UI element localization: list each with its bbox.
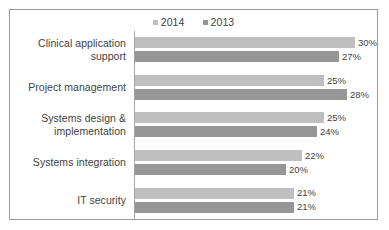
- legend-label-2013: 2013: [211, 17, 235, 28]
- category-row-systems-integration: Systems integration 22% 20%: [10, 144, 377, 182]
- bar-value-2013: 27%: [342, 52, 361, 62]
- bar-value-2014: 22%: [305, 151, 324, 161]
- bar-value-2013: 20%: [289, 165, 308, 175]
- category-rows: Clinical application support 30% 27%: [10, 31, 377, 219]
- bar-line-2013: 27%: [135, 51, 377, 62]
- category-row-project-management: Project management 25% 28%: [10, 69, 377, 107]
- bar-2013[interactable]: [135, 126, 317, 137]
- bar-value-2014: 21%: [297, 188, 316, 198]
- bar-value-2014: 25%: [327, 113, 346, 123]
- chart-frame: 2014 2013 Clinical application support 3…: [9, 9, 378, 220]
- bar-group: 25% 28%: [135, 69, 377, 107]
- bar-group: 22% 20%: [135, 144, 377, 182]
- bar-line-2014: 25%: [135, 75, 377, 86]
- bar-group: 25% 24%: [135, 106, 377, 144]
- legend-swatch-2014: [153, 20, 158, 25]
- category-row-clinical-application-support: Clinical application support 30% 27%: [10, 31, 377, 69]
- chart-legend: 2014 2013: [10, 13, 377, 31]
- bar-line-2013: 24%: [135, 126, 377, 137]
- bar-2013[interactable]: [135, 51, 339, 62]
- category-label: Systems integration: [10, 156, 130, 169]
- bar-value-2014: 25%: [327, 76, 346, 86]
- bar-value-2014: 30%: [358, 38, 377, 48]
- category-label: Systems design & implementation: [10, 112, 130, 137]
- category-row-it-security: IT security 21% 21%: [10, 181, 377, 219]
- bar-line-2013: 28%: [135, 89, 377, 100]
- bar-group: 30% 27%: [135, 31, 377, 69]
- category-row-systems-design-implementation: Systems design & implementation 25% 24%: [10, 106, 377, 144]
- bar-2013[interactable]: [135, 89, 347, 100]
- bar-line-2014: 30%: [135, 37, 377, 48]
- legend-label-2014: 2014: [161, 17, 185, 28]
- bar-line-2014: 22%: [135, 150, 377, 161]
- plot-area: Clinical application support 30% 27%: [10, 31, 377, 219]
- category-label: IT security: [10, 194, 130, 207]
- legend-entry-2013[interactable]: 2013: [203, 17, 235, 28]
- category-label: Project management: [10, 81, 130, 94]
- legend-swatch-2013: [203, 20, 208, 25]
- bar-2014[interactable]: [135, 75, 324, 86]
- bar-value-2013: 24%: [320, 127, 339, 137]
- bar-2013[interactable]: [135, 202, 294, 213]
- bar-line-2013: 21%: [135, 202, 377, 213]
- bar-line-2013: 20%: [135, 164, 377, 175]
- bar-line-2014: 25%: [135, 112, 377, 123]
- bar-chart-figure: 2014 2013 Clinical application support 3…: [0, 0, 389, 230]
- bar-2013[interactable]: [135, 164, 286, 175]
- bar-2014[interactable]: [135, 188, 294, 199]
- category-label: Clinical application support: [10, 37, 130, 62]
- bar-2014[interactable]: [135, 112, 324, 123]
- legend-entry-2014[interactable]: 2014: [153, 17, 185, 28]
- bar-2014[interactable]: [135, 150, 302, 161]
- bar-value-2013: 21%: [297, 202, 316, 212]
- bar-value-2013: 28%: [350, 90, 369, 100]
- bar-group: 21% 21%: [135, 181, 377, 219]
- bar-2014[interactable]: [135, 37, 355, 48]
- bar-line-2014: 21%: [135, 188, 377, 199]
